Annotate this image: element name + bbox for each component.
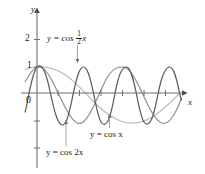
annotation-cos-2x: y = cos 2x (46, 148, 83, 157)
y-tick-label-2: 2 (25, 34, 30, 44)
annotation-cos-x: y = cos x (90, 130, 123, 139)
cosine-family-figure: y x 2 1 0 y = cos 12x y = cos x y = cos … (0, 0, 205, 174)
annotation-cos-half-x-prefix: y = cos (47, 33, 76, 43)
origin-label: 0 (26, 95, 31, 105)
y-tick-label-1: 1 (27, 61, 32, 71)
curve-cos-half-x (25, 67, 180, 123)
one-half-fraction: 12 (76, 31, 82, 47)
annotation-cos-half-x-suffix: x (82, 33, 86, 43)
annotation-cos-half-x: y = cos 12x (47, 31, 86, 47)
fraction-numerator: 1 (76, 31, 82, 38)
x-axis-label: x (188, 98, 192, 107)
plot-canvas (0, 0, 205, 174)
y-axis-label: y (31, 5, 35, 14)
fraction-denominator: 2 (76, 38, 82, 46)
